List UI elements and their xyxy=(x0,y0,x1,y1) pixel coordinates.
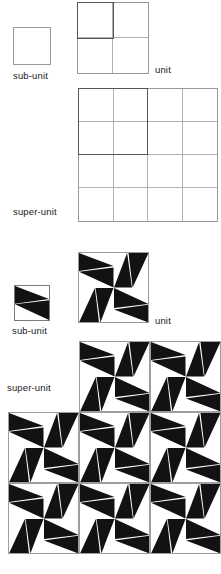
grid-cell xyxy=(148,188,183,221)
grid-cell xyxy=(79,122,114,155)
pinwheel-triangle-icon xyxy=(186,342,221,377)
pinwheel-triangle-icon xyxy=(44,519,79,554)
motif-cell-r90 xyxy=(80,519,115,554)
grid-cell xyxy=(148,89,183,122)
pinwheel-triangle-icon xyxy=(80,484,115,519)
pinwheel-triangle-icon xyxy=(186,519,221,554)
pinwheel-triangle-icon xyxy=(114,253,149,288)
motif-cell-r90 xyxy=(80,448,115,483)
grid-cell xyxy=(183,89,218,122)
pinwheel-triangle-icon xyxy=(186,377,221,412)
motif-cell-r270 xyxy=(44,484,79,519)
grid-cell xyxy=(78,3,113,38)
motif-cell-r180 xyxy=(186,377,221,412)
grid-cell xyxy=(114,155,149,188)
motif-cell-r0 xyxy=(151,484,186,519)
pinwheel-triangle-icon xyxy=(151,413,186,448)
pinwheel-triangle-icon xyxy=(114,288,149,323)
motif-cell-r270 xyxy=(115,413,150,448)
outline-unit-grid xyxy=(77,2,149,74)
motif-unit-tile xyxy=(78,252,149,323)
motif-cell-r270 xyxy=(186,413,221,448)
motif-cell-r0 xyxy=(15,286,49,320)
motif-unit-tile xyxy=(8,412,79,483)
motif-unit-tile xyxy=(150,483,221,554)
pinwheel-triangle-icon xyxy=(151,519,186,554)
motif-unit-tile xyxy=(79,341,150,412)
pinwheel-triangle-icon xyxy=(151,484,186,519)
pinwheel-triangle-icon xyxy=(79,288,114,323)
grid-cell xyxy=(113,3,148,38)
motif-cell-r180 xyxy=(44,448,79,483)
motif-sub-unit-tile xyxy=(14,285,50,321)
motif-cell-r90 xyxy=(9,448,44,483)
pinwheel-triangle-icon xyxy=(9,448,44,483)
motif-cell-r0 xyxy=(80,413,115,448)
outline-super-unit-label: super-unit xyxy=(13,206,57,217)
motif-cell-r0 xyxy=(79,253,114,288)
motif-unit-tile xyxy=(150,341,221,412)
pinwheel-triangle-icon xyxy=(44,448,79,483)
outline-unit-label: unit xyxy=(155,64,171,75)
motif-cell-r270 xyxy=(115,484,150,519)
outline-sub-unit-label: sub-unit xyxy=(13,70,48,81)
motif-unit-tile xyxy=(79,483,150,554)
motif-cell-r90 xyxy=(151,519,186,554)
motif-cell-r270 xyxy=(186,484,221,519)
motif-cell-r90 xyxy=(79,288,114,323)
pinwheel-triangle-icon xyxy=(115,377,150,412)
pinwheel-triangle-icon xyxy=(186,448,221,483)
pinwheel-triangle-icon xyxy=(115,448,150,483)
pinwheel-triangle-icon xyxy=(151,342,186,377)
pinwheel-triangle-icon xyxy=(80,519,115,554)
motif-cell-r180 xyxy=(114,288,149,323)
motif-unit-label: unit xyxy=(155,315,171,326)
pinwheel-triangle-icon xyxy=(186,484,221,519)
pinwheel-triangle-icon xyxy=(15,286,49,320)
motif-cell-r180 xyxy=(186,448,221,483)
grid-cell xyxy=(78,38,113,73)
grid-cell xyxy=(183,122,218,155)
motif-cell-r270 xyxy=(186,342,221,377)
pinwheel-triangle-icon xyxy=(80,377,115,412)
motif-cell-r0 xyxy=(80,342,115,377)
grid-cell xyxy=(114,122,149,155)
grid-cell xyxy=(113,38,148,73)
motif-unit-tile xyxy=(79,412,150,483)
grid-cell xyxy=(114,89,149,122)
motif-cell-r270 xyxy=(44,413,79,448)
grid-cell xyxy=(148,122,183,155)
outline-sub-unit-square xyxy=(13,27,51,65)
outline-super-unit-grid xyxy=(78,88,218,222)
pinwheel-triangle-icon xyxy=(80,413,115,448)
grid-cell xyxy=(114,188,149,221)
motif-unit-tile xyxy=(150,412,221,483)
motif-cell-r0 xyxy=(151,413,186,448)
motif-cell-r180 xyxy=(115,377,150,412)
motif-sub-unit-label: sub-unit xyxy=(12,325,47,336)
motif-cell-r90 xyxy=(151,377,186,412)
grid-cell xyxy=(148,155,183,188)
motif-cell-r0 xyxy=(151,342,186,377)
motif-cell-r90 xyxy=(151,448,186,483)
pinwheel-triangle-icon xyxy=(186,413,221,448)
pinwheel-triangle-icon xyxy=(9,413,44,448)
motif-cell-r270 xyxy=(114,253,149,288)
grid-cell xyxy=(79,155,114,188)
motif-cell-r0 xyxy=(9,484,44,519)
grid-cell xyxy=(79,188,114,221)
motif-unit-tile xyxy=(8,483,79,554)
pinwheel-triangle-icon xyxy=(151,448,186,483)
pinwheel-triangle-icon xyxy=(115,342,150,377)
pinwheel-triangle-icon xyxy=(80,342,115,377)
motif-cell-r90 xyxy=(80,377,115,412)
grid-cell xyxy=(183,155,218,188)
motif-super-unit-cluster xyxy=(8,341,220,571)
grid-cell xyxy=(183,188,218,221)
pinwheel-triangle-icon xyxy=(44,413,79,448)
motif-cell-r270 xyxy=(115,342,150,377)
motif-cell-r0 xyxy=(80,484,115,519)
pinwheel-triangle-icon xyxy=(80,448,115,483)
grid-cell xyxy=(79,89,114,122)
motif-cell-r180 xyxy=(44,519,79,554)
